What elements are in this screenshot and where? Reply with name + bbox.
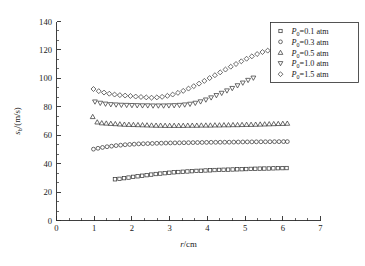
data-point <box>271 121 276 125</box>
data-point <box>209 140 213 144</box>
data-point <box>93 100 98 104</box>
legend-label: P0=1.0 atm <box>291 59 330 69</box>
data-point <box>218 70 223 75</box>
data-point <box>144 95 149 100</box>
data-point <box>181 170 184 173</box>
legend-label: P0=0.3 atm <box>291 38 330 48</box>
data-point <box>98 101 103 105</box>
data-point <box>244 167 247 170</box>
data-point <box>280 121 285 125</box>
data-point <box>236 140 240 144</box>
data-point <box>241 140 245 144</box>
data-point <box>91 87 96 92</box>
x-tick-label: 0 <box>54 223 58 233</box>
y-tick-label: 100 <box>39 73 52 83</box>
data-point <box>99 121 104 125</box>
data-point <box>140 123 145 127</box>
data-point <box>200 141 204 145</box>
data-point <box>167 123 172 127</box>
data-point <box>208 123 213 127</box>
data-point <box>276 166 279 169</box>
data-point <box>126 122 131 126</box>
data-point <box>285 140 289 144</box>
data-point <box>103 102 108 106</box>
data-point <box>119 103 124 107</box>
y-tick-label: 0 <box>48 216 52 226</box>
y-tick-label: 60 <box>43 130 52 140</box>
data-point <box>244 122 249 126</box>
data-point <box>219 91 224 95</box>
legend-label: P0=0.5 atm <box>291 49 330 59</box>
data-point <box>182 141 186 145</box>
data-point <box>154 95 159 100</box>
data-point <box>258 167 261 170</box>
data-point <box>194 123 199 127</box>
data-point <box>146 142 150 146</box>
data-point <box>128 94 133 99</box>
data-point <box>159 141 163 145</box>
data-point <box>149 123 154 127</box>
data-point <box>264 140 268 144</box>
data-point <box>213 168 216 171</box>
data-point <box>172 104 177 108</box>
data-point <box>155 141 159 145</box>
data-point <box>281 166 284 169</box>
data-point <box>258 122 263 126</box>
data-point <box>199 123 204 127</box>
data-point <box>172 123 177 127</box>
data-point <box>188 102 193 106</box>
data-point <box>108 121 113 125</box>
data-point <box>145 123 150 127</box>
series-0 <box>113 166 288 181</box>
data-point <box>114 144 118 148</box>
x-tick-label: 5 <box>243 223 247 233</box>
data-point <box>240 167 243 170</box>
data-point <box>114 103 119 107</box>
data-point <box>136 175 139 178</box>
data-point <box>208 169 211 172</box>
data-point <box>181 123 186 127</box>
data-point <box>217 168 220 171</box>
data-point <box>168 171 171 174</box>
y-axis-title: sb/(m/s) <box>12 107 23 135</box>
data-point <box>254 167 257 170</box>
data-point <box>128 143 132 147</box>
data-point <box>239 59 244 64</box>
data-point <box>249 167 252 170</box>
data-point <box>254 140 258 144</box>
data-point <box>172 171 175 174</box>
chart-figure: 01234567020406080100120140r/cmsb/(m/s)P0… <box>0 0 365 266</box>
data-point <box>196 141 200 145</box>
scatter-plot: 01234567020406080100120140r/cmsb/(m/s)P0… <box>0 0 365 266</box>
data-point <box>160 94 165 99</box>
data-point <box>195 169 198 172</box>
data-point <box>191 141 195 145</box>
series-4 <box>91 47 280 101</box>
data-point <box>163 171 166 174</box>
data-point <box>203 98 208 102</box>
data-point <box>263 167 266 170</box>
data-point <box>187 141 191 145</box>
data-point <box>151 104 156 108</box>
data-point <box>212 123 217 127</box>
data-point <box>96 89 101 94</box>
data-point <box>156 104 161 108</box>
data-point <box>131 175 134 178</box>
data-point <box>113 178 116 181</box>
data-point <box>190 123 195 127</box>
data-point <box>204 169 207 172</box>
data-point <box>282 140 286 144</box>
y-tick-label: 20 <box>43 187 52 197</box>
data-point <box>110 144 114 148</box>
data-point <box>130 104 135 108</box>
data-point <box>124 103 129 107</box>
data-point <box>92 147 96 151</box>
data-point <box>107 91 112 96</box>
data-point <box>154 123 159 127</box>
data-point <box>265 48 270 53</box>
data-point <box>203 123 208 127</box>
data-point <box>102 90 107 95</box>
data-point <box>232 140 236 144</box>
data-point <box>277 140 281 144</box>
legend-label: P0=1.5 atm <box>291 70 330 80</box>
